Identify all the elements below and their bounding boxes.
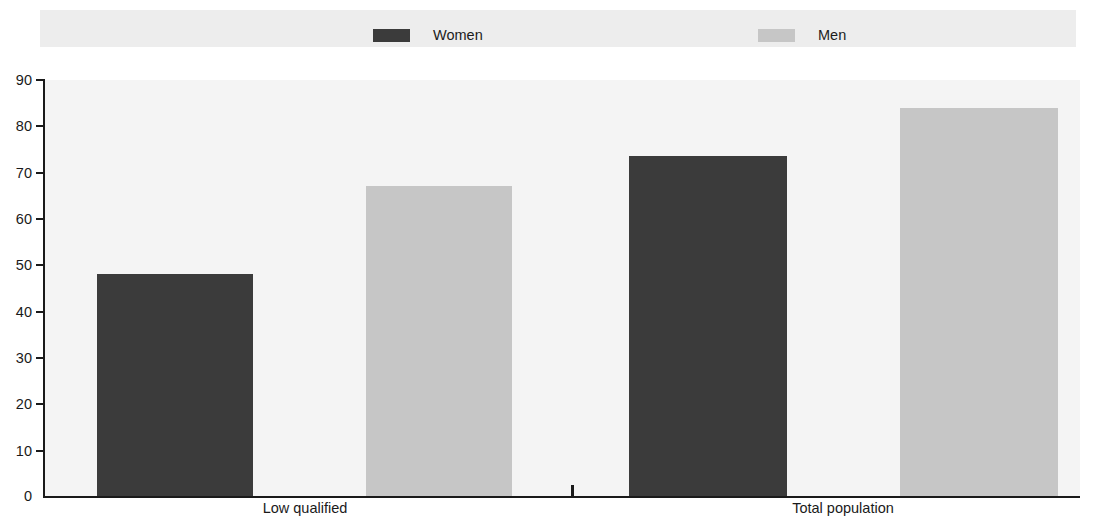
bar-women-total-population[interactable] — [629, 156, 787, 496]
legend-label-women: Women — [433, 28, 483, 43]
y-axis-label-60: 60 — [0, 212, 32, 227]
x-tick-mark-group-divider — [571, 485, 574, 497]
y-axis-label-30: 30 — [0, 351, 32, 366]
y-axis-label-40: 40 — [0, 305, 32, 320]
y-axis-label-80: 80 — [0, 119, 32, 134]
y-axis-label-0: 0 — [0, 489, 32, 504]
y-axis-label-10: 10 — [0, 444, 32, 459]
y-tick-mark — [36, 79, 45, 81]
y-axis-line — [43, 79, 45, 498]
y-axis-label-90: 90 — [0, 73, 32, 88]
y-tick-mark — [36, 403, 45, 405]
y-tick-mark — [36, 311, 45, 313]
bar-women-low-qualified[interactable] — [97, 274, 253, 496]
x-axis-category-low-qualified: Low qualified — [205, 501, 405, 516]
y-axis-label-20: 20 — [0, 397, 32, 412]
bar-chart: Women Men 90 80 70 60 50 40 30 20 10 0 L… — [0, 0, 1100, 521]
legend-swatch-men-icon — [758, 29, 795, 42]
y-axis-label-50: 50 — [0, 258, 32, 273]
legend-item-men[interactable]: Men — [758, 26, 846, 44]
y-tick-mark — [36, 172, 45, 174]
x-axis-category-total-population: Total population — [743, 501, 943, 516]
legend-item-women[interactable]: Women — [373, 26, 483, 44]
y-tick-mark — [36, 357, 45, 359]
bar-men-low-qualified[interactable] — [366, 186, 512, 496]
legend-swatch-women-icon — [373, 29, 410, 42]
legend: Women Men — [40, 10, 1076, 47]
y-tick-mark — [36, 450, 45, 452]
y-axis-label-70: 70 — [0, 166, 32, 181]
x-axis-line — [43, 496, 1080, 498]
y-tick-mark — [36, 218, 45, 220]
y-tick-mark — [36, 264, 45, 266]
y-tick-mark — [36, 125, 45, 127]
legend-label-men: Men — [818, 28, 846, 43]
bar-men-total-population[interactable] — [900, 108, 1058, 496]
